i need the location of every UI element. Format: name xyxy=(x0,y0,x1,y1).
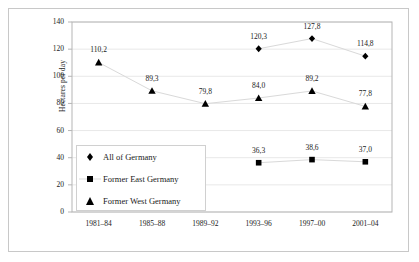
y-axis-tick-label: 60 xyxy=(42,126,64,135)
data-point-label: 127,8 xyxy=(304,22,321,31)
y-axis-tick-label: 100 xyxy=(42,71,64,80)
x-axis-tick-label: 1981–84 xyxy=(69,219,129,228)
legend-label: All of Germany xyxy=(103,152,157,162)
data-point-label: 89,3 xyxy=(145,74,158,83)
data-point-label: 79,8 xyxy=(199,87,212,96)
data-point-label: 114,8 xyxy=(357,39,374,48)
x-axis-tick-label: 2001–04 xyxy=(335,219,395,228)
chart-legend: All of Germany Former East Germany Forme… xyxy=(76,145,206,211)
data-point-marker xyxy=(256,160,262,166)
data-point-marker xyxy=(256,45,262,52)
data-point-label: 77,8 xyxy=(359,89,372,98)
legend-item-former-west-germany: Former West Germany xyxy=(77,190,207,212)
data-point-marker xyxy=(363,159,369,165)
legend-item-former-east-germany: Former East Germany xyxy=(77,168,207,190)
data-point-label: 84,0 xyxy=(252,81,265,90)
y-axis-tick-label: 0 xyxy=(42,207,64,216)
data-point-marker xyxy=(309,157,315,163)
legend-label: Former West Germany xyxy=(103,196,181,206)
data-point-label: 89,2 xyxy=(305,74,318,83)
chart-figure: Hectares per day 020406080100120140 1981… xyxy=(0,0,419,262)
legend-label: Former East Germany xyxy=(103,174,179,184)
y-axis-tick-label: 140 xyxy=(42,17,64,26)
y-axis-tick-label: 40 xyxy=(42,153,64,162)
axis-ticks-group xyxy=(68,22,72,212)
square-marker-icon xyxy=(77,168,103,190)
data-point-label: 110,2 xyxy=(90,45,107,54)
data-point-marker xyxy=(148,87,155,94)
data-point-marker xyxy=(309,35,315,42)
x-axis-tick-label: 1989–92 xyxy=(175,219,235,228)
triangle-marker-icon xyxy=(77,190,103,212)
data-point-label: 38,6 xyxy=(305,143,318,152)
y-axis-tick-label: 120 xyxy=(42,44,64,53)
legend-item-all-of-germany: All of Germany xyxy=(77,146,207,168)
diamond-marker-icon xyxy=(77,146,103,168)
x-axis-tick-label: 1997–00 xyxy=(282,219,342,228)
data-point-marker xyxy=(95,59,102,66)
data-point-label: 37,0 xyxy=(359,145,372,154)
y-axis-title: Hectares per day xyxy=(58,46,67,126)
y-axis-tick-label: 80 xyxy=(42,98,64,107)
data-point-label: 120,3 xyxy=(250,32,267,41)
x-axis-tick-label: 1993–96 xyxy=(229,219,289,228)
data-point-marker xyxy=(308,87,315,94)
data-point-label: 36,3 xyxy=(252,146,265,155)
y-axis-tick-label: 20 xyxy=(42,180,64,189)
x-axis-tick-label: 1985–88 xyxy=(122,219,182,228)
data-point-marker xyxy=(362,53,368,60)
